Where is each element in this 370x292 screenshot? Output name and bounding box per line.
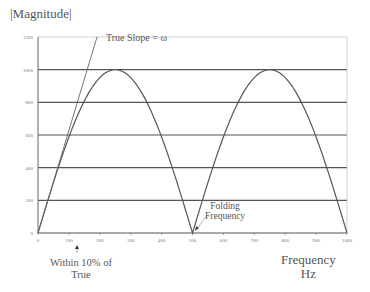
x-tick-label: 1000 — [342, 238, 353, 243]
folding-line2: Frequency — [205, 211, 245, 221]
y-tick-label: 1200 — [23, 35, 34, 40]
x-tick-label: 300 — [127, 238, 135, 243]
x-tick-label: 400 — [158, 238, 166, 243]
true-slope-annotation: True Slope = ω — [106, 32, 167, 43]
aliased-magnitude-curve — [38, 70, 347, 233]
axes — [38, 37, 347, 235]
within-line1: Within 10% of — [50, 257, 112, 269]
within-arrow-icon — [75, 245, 79, 253]
x-tick-label: 100 — [65, 238, 73, 243]
x-tick-label: 900 — [312, 238, 320, 243]
x-tick-label: 500 — [189, 238, 197, 243]
x-tick-label: 700 — [251, 238, 259, 243]
gridlines — [38, 37, 347, 233]
within-10pct-annotation: Within 10% of True — [50, 257, 112, 280]
folding-frequency-annotation: Folding Frequency — [205, 201, 245, 222]
y-tick-label: 800 — [26, 100, 34, 105]
y-tick-label: 1000 — [23, 68, 34, 73]
magnitude-frequency-chart: 2004006008001000120000100200300400500600… — [0, 0, 370, 292]
y-tick-label: 0 — [31, 231, 34, 236]
x-axis-label-line2: Hz — [281, 267, 336, 281]
y-tick-label: 600 — [26, 133, 34, 138]
x-axis-label-line1: Frequency — [281, 253, 336, 267]
x-tick-label: 800 — [281, 238, 289, 243]
within-line2: True — [50, 269, 112, 281]
folding-line1: Folding — [205, 201, 245, 211]
tick-labels: 2004006008001000120000100200300400500600… — [23, 35, 353, 243]
x-axis-label: Frequency Hz — [281, 253, 336, 282]
x-tick-label: 200 — [96, 238, 104, 243]
y-tick-label: 400 — [26, 166, 34, 171]
x-tick-label: 600 — [220, 238, 228, 243]
y-tick-label: 200 — [26, 198, 34, 203]
x-tick-label: 0 — [37, 238, 40, 243]
